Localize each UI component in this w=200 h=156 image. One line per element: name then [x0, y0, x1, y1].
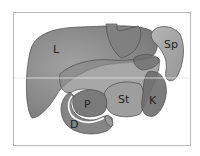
duodenum-label: D	[70, 118, 78, 131]
stomach-label: St	[118, 93, 130, 106]
liver-label: L	[53, 43, 60, 56]
spleen-label: Sp	[164, 38, 178, 51]
pancreas-label: P	[84, 98, 91, 111]
abdominal-organs-diagram: L Sp P St K D	[0, 0, 200, 156]
kidney-label: K	[149, 94, 157, 107]
